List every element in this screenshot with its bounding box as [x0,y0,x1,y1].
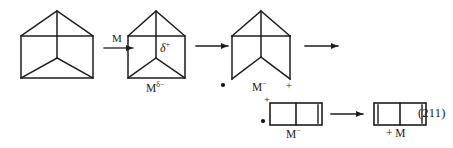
prismane-left-diagonal [21,58,57,78]
structure4-metal-label: M− [286,129,301,141]
reaction-scheme: M δ+ Mδ− M− + + M− + M (211) [0,0,453,148]
prismane2-right-diagonal [156,58,185,78]
opened-left-leg [232,57,261,79]
product-released-metal-label: + M [386,128,406,140]
structure3-cation-label: + [286,81,292,92]
radical-dot-structure-4 [261,119,265,123]
radical-dot-structure-3 [221,83,225,87]
metal-negative-charge: − [296,126,300,135]
structure-ring-opened-zwitterion [232,11,290,79]
prismane-right-diagonal [57,58,93,78]
reaction-arrow-3 [305,43,338,49]
structure-prismane-metal-complex [128,11,185,78]
opened-right-leg [261,57,290,79]
reaction-arrow-4 [331,111,363,117]
reaction-arrow-2 [196,43,228,49]
plus-sign-glyph: + [166,40,171,49]
metal-partial-negative-charge: δ− [156,80,164,89]
scheme-drawing-canvas [0,0,453,148]
structure2-partial-positive-label: δ+ [160,42,170,54]
metal-symbol: M [252,81,262,93]
structure-prismane-reactant [21,11,93,78]
prismane2-left-diagonal [128,58,156,78]
structure-fused-four-membered-intermediate [270,103,322,125]
metal-symbol: M [286,128,296,140]
metal-negative-charge: − [262,79,266,88]
equation-number: (211) [418,107,446,120]
structure4-cation-label: + [264,95,270,106]
structure2-metal-label: Mδ− [146,83,164,95]
metal-symbol: M [146,82,156,94]
structure3-metal-label: M− [252,82,267,94]
arrow1-reagent-label: M [112,33,122,44]
